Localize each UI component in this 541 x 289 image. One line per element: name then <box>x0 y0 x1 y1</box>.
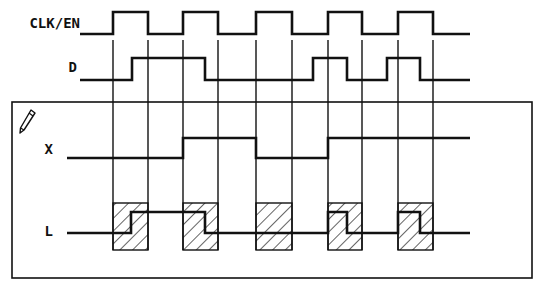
hatched-window-5 <box>398 203 433 250</box>
signal-label-d: D <box>69 59 77 75</box>
waveform-d <box>80 58 470 80</box>
annotation-frame <box>12 102 532 278</box>
hatched-window-2 <box>183 203 218 250</box>
hatched-window-3 <box>256 203 292 250</box>
waveform-clk-en <box>80 12 470 34</box>
waveform-x <box>67 138 470 158</box>
signal-waveforms <box>67 12 470 233</box>
signal-label-l: L <box>45 223 53 239</box>
timing-diagram: CLK/ENDXL <box>0 0 541 289</box>
signal-label-clk-en: CLK/EN <box>29 15 80 31</box>
hatched-sampling-windows <box>113 203 433 250</box>
hatched-window-4 <box>328 203 362 250</box>
signal-labels: CLK/ENDXL <box>29 15 80 239</box>
pencil-icon <box>20 110 35 133</box>
signal-label-x: X <box>45 141 54 157</box>
